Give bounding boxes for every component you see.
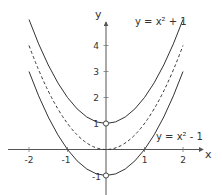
x-tick-label: 2 [180, 155, 186, 165]
y-tick-label: 3 [93, 67, 99, 77]
x-tick-label: 1 [142, 155, 148, 165]
y-tick-label: 2 [93, 93, 99, 103]
y-tick-label: 4 [93, 41, 99, 51]
x-tick-label: -2 [25, 155, 34, 165]
upper-curve-label: y = x² + 1 [135, 16, 187, 27]
x-axis-label: x [205, 148, 212, 161]
open-point-lower [103, 173, 108, 178]
lower-curve-label: y = x² - 1 [156, 131, 203, 142]
open-point-upper [103, 121, 108, 126]
x-tick-label: -1 [62, 155, 71, 165]
function-graph: -2 -1 1 2 4 3 2 1 -1 x y y = x² + 1 y = … [0, 0, 222, 195]
y-axis-label: y [95, 8, 102, 21]
